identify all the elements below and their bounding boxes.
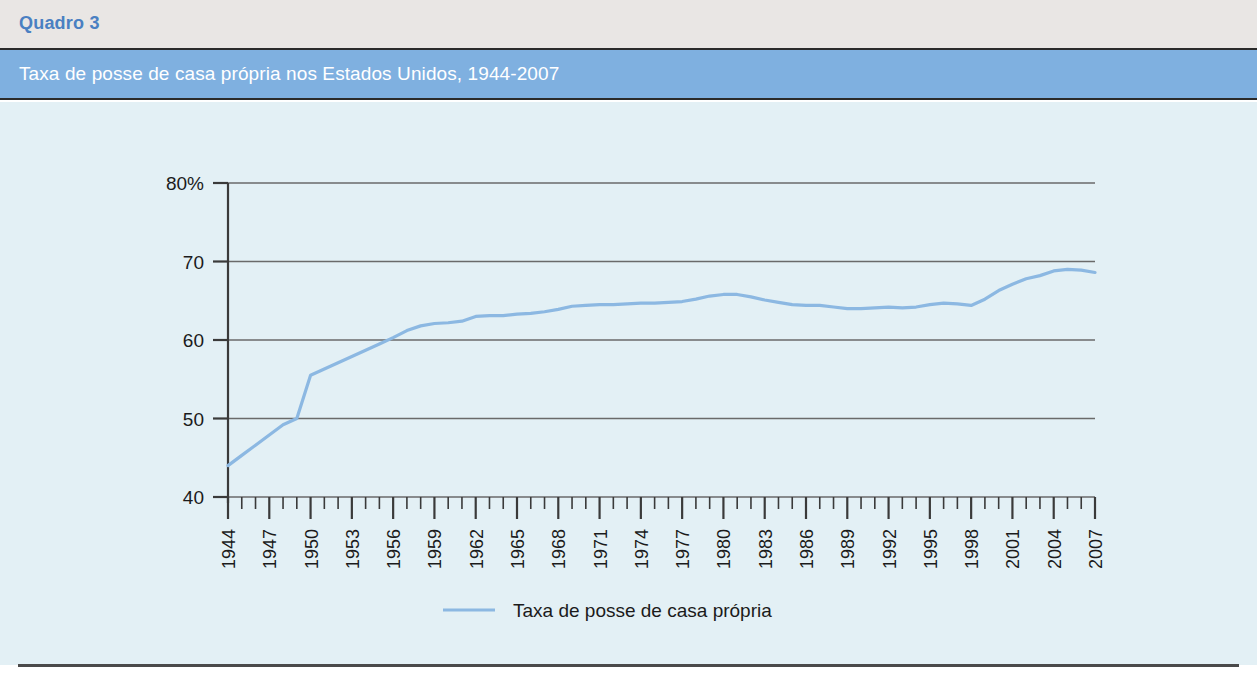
x-tick-label: 1992 xyxy=(880,529,900,569)
x-tick-label: 1956 xyxy=(384,529,404,569)
chart-title-band: Taxa de posse de casa própria nos Estado… xyxy=(0,50,1257,100)
x-axis: 1944194719501953195619591962196519681971… xyxy=(219,497,1106,569)
x-tick-label: 1968 xyxy=(549,529,569,569)
x-tick-label: 1983 xyxy=(756,529,776,569)
series-lines xyxy=(228,269,1095,465)
y-tick-label: 50 xyxy=(183,409,204,430)
x-tick-label: 1986 xyxy=(797,529,817,569)
x-tick-label: 1953 xyxy=(343,529,363,569)
line-chart: 4050607080% 1944194719501953195619591962… xyxy=(0,102,1257,665)
table-number-band: Quadro 3 xyxy=(0,0,1257,50)
x-tick-label: 1959 xyxy=(425,529,445,569)
legend-label: Taxa de posse de casa própria xyxy=(513,600,772,621)
x-tick-label: 1980 xyxy=(714,529,734,569)
x-tick-label: 2007 xyxy=(1086,529,1106,569)
chart-panel: 4050607080% 1944194719501953195619591962… xyxy=(0,102,1257,665)
x-tick-label: 1965 xyxy=(508,529,528,569)
y-tick-label: 60 xyxy=(183,330,204,351)
y-tick-label: 70 xyxy=(183,252,204,273)
y-axis: 4050607080% xyxy=(166,173,228,508)
x-tick-label: 1947 xyxy=(260,529,280,569)
x-tick-label: 1998 xyxy=(962,529,982,569)
chart-legend: Taxa de posse de casa própria xyxy=(443,600,772,621)
x-tick-label: 1977 xyxy=(673,529,693,569)
x-tick-label: 1971 xyxy=(591,529,611,569)
x-tick-label: 1989 xyxy=(838,529,858,569)
table-number-label: Quadro 3 xyxy=(19,13,100,34)
x-tick-label: 2004 xyxy=(1045,529,1065,569)
gridlines xyxy=(228,183,1095,497)
x-tick-label: 1995 xyxy=(921,529,941,569)
x-tick-label: 1944 xyxy=(219,529,239,569)
y-tick-label: 40 xyxy=(183,487,204,508)
y-tick-label: 80% xyxy=(166,173,204,194)
series-line xyxy=(228,269,1095,465)
x-tick-label: 2001 xyxy=(1003,529,1023,569)
x-tick-label: 1974 xyxy=(632,529,652,569)
chart-title: Taxa de posse de casa própria nos Estado… xyxy=(19,63,559,85)
x-tick-label: 1962 xyxy=(467,529,487,569)
figure-quadro-3: Quadro 3 Taxa de posse de casa própria n… xyxy=(0,0,1257,679)
x-tick-label: 1950 xyxy=(302,529,322,569)
bottom-divider xyxy=(18,664,1239,667)
